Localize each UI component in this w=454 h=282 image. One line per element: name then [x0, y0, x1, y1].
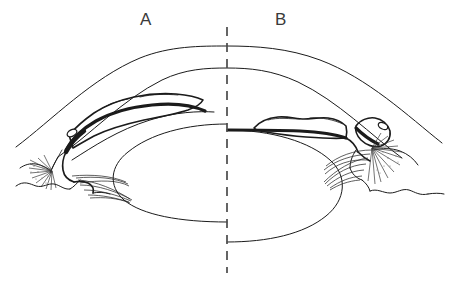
figure-root: A B [0, 0, 454, 282]
panel-label-b: B [275, 11, 287, 28]
panel-label-a: A [140, 11, 152, 28]
anatomy-diagram-svg [0, 0, 454, 282]
